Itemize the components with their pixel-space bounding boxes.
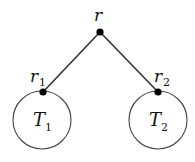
left-child-sub: 1 [39,76,46,89]
right-child-sub: 2 [163,76,170,89]
edge-root-left [43,32,100,92]
left-child-node [39,88,46,95]
right-subtree-sub: 2 [161,121,168,134]
root-label: r [94,5,103,25]
edge-root-right [100,32,158,92]
tree-svg: r r 1 r 2 T 1 T 2 [0,0,195,162]
left-subtree-sub: 1 [45,121,52,134]
right-child-node [154,88,161,95]
tree-diagram: r r 1 r 2 T 1 T 2 [0,0,195,162]
left-child-label: r [30,66,39,86]
right-child-label: r [154,66,163,86]
root-node [96,28,103,35]
